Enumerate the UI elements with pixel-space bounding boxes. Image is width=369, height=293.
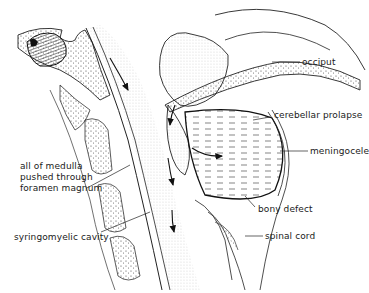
label-cerebellar-prolapse: cerebellar prolapse bbox=[274, 110, 362, 121]
label-occiput: occiput bbox=[302, 57, 336, 68]
label-meningocele: meningocele bbox=[310, 146, 369, 157]
label-bony-defect: bony defect bbox=[258, 204, 313, 215]
label-medulla: all of medulla pushed through foramen ma… bbox=[20, 161, 102, 194]
label-syringomyelic-cavity: syringomyelic cavity bbox=[14, 232, 109, 243]
label-spinal-cord: spinal cord bbox=[265, 231, 315, 242]
spinal-canal bbox=[195, 200, 245, 290]
